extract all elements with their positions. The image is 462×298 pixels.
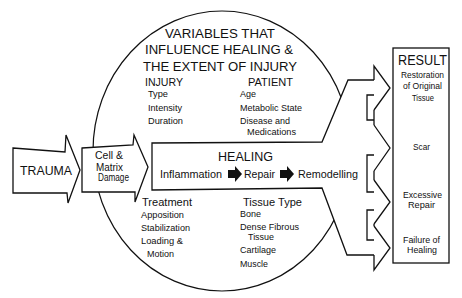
outcome-line: Scar — [413, 141, 430, 152]
treatment-item: Apposition — [141, 209, 184, 220]
outcome-arrow-excessive-repair — [374, 180, 390, 224]
outcome-failure-of-healing: Failure of Healing — [403, 234, 440, 255]
treatment-item: Loading & — [141, 235, 184, 246]
tissue-type-item: Bone — [240, 208, 261, 219]
injury-item: Type — [148, 88, 168, 99]
tissue-type-item: Muscle — [240, 258, 268, 269]
damage-label-line: Damage — [98, 171, 129, 183]
damage-label-line: Cell & — [95, 149, 123, 161]
result-title: RESULT — [398, 52, 447, 68]
injury-item: Duration — [148, 115, 183, 126]
treatment-heading: Treatment — [142, 196, 193, 208]
variables-title: VARIABLES THAT INFLUENCE HEALING & THE E… — [143, 26, 297, 74]
variables-title-line: INFLUENCE HEALING & — [145, 42, 293, 57]
tissue-type-item: Tissue — [248, 231, 274, 242]
treatment-item: Motion — [147, 248, 174, 259]
outcome-line: Repair — [408, 199, 435, 210]
injury-heading: INJURY — [145, 76, 183, 88]
outcome-arrow-restoration — [374, 66, 390, 110]
tissue-type-heading: Tissue Type — [243, 196, 302, 208]
stage-remodelling: Remodelling — [298, 168, 358, 180]
healing-diagram: TRAUMA Cell & Matrix Damage VARIABLES TH… — [0, 0, 462, 298]
outcome-line: Healing — [407, 244, 437, 255]
diagram-canvas: TRAUMA Cell & Matrix Damage VARIABLES TH… — [0, 0, 462, 298]
stage-inflammation: Inflammation — [160, 168, 222, 180]
patient-item: Medications — [247, 126, 296, 137]
outcome-line: Tissue — [412, 92, 434, 103]
injury-item: Intensity — [148, 102, 182, 113]
variables-title-line: VARIABLES THAT — [165, 26, 275, 41]
tissue-type-item: Cartilage — [240, 244, 276, 255]
treatment-item: Stabilization — [141, 222, 190, 233]
outcome-arrow-failure — [374, 226, 390, 270]
patient-heading: PATIENT — [248, 76, 293, 88]
patient-item: Age — [240, 88, 256, 99]
outcome-line: of Original — [403, 80, 442, 91]
healing-title: HEALING — [218, 149, 273, 164]
trauma-label: TRAUMA — [20, 163, 72, 178]
outcome-line: Restoration — [401, 69, 444, 80]
patient-item: Metabolic State — [240, 102, 302, 113]
variables-title-line: THE EXTENT OF INJURY — [143, 59, 297, 74]
patient-item: Disease and — [240, 115, 290, 126]
stage-repair: Repair — [244, 168, 275, 180]
result-box: RESULT Restoration of Original Tissue Sc… — [393, 48, 449, 263]
outcome-scar: Scar — [413, 141, 430, 152]
outcome-arrow-scar — [374, 125, 390, 171]
patient-variables: PATIENT Age Metabolic State Disease and … — [240, 76, 302, 137]
